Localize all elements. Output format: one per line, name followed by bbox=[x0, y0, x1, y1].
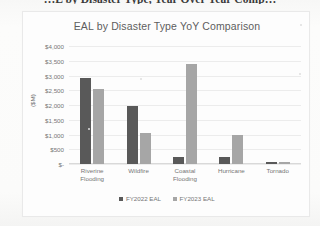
legend-label: FY2022 EAL bbox=[126, 195, 161, 202]
x-axis-tick-label: Hurricane bbox=[210, 167, 252, 182]
bar[interactable] bbox=[186, 64, 197, 164]
bar-group bbox=[71, 46, 113, 164]
legend-label: FY2023 EAL bbox=[180, 195, 215, 202]
legend-item[interactable]: FY2022 EAL bbox=[119, 195, 161, 202]
y-axis-tick-label: $- bbox=[58, 161, 64, 168]
bar[interactable] bbox=[140, 133, 151, 164]
scan-speck bbox=[299, 73, 301, 75]
bar[interactable] bbox=[173, 157, 184, 164]
bar[interactable] bbox=[266, 162, 277, 164]
y-axis-tick-label: $2,000 bbox=[45, 102, 64, 109]
y-axis-tick-label: $4,000 bbox=[45, 43, 64, 50]
chart-object[interactable]: EAL by Disaster Type YoY Comparison ($M)… bbox=[22, 11, 310, 217]
x-axis-labels: Riverine FloodingWildfireCoastal Floodin… bbox=[69, 167, 301, 182]
bar-group bbox=[164, 46, 206, 164]
chart-legend: FY2022 EALFY2023 EAL bbox=[23, 195, 311, 202]
x-axis-tick-label: Wildfire bbox=[118, 167, 160, 182]
y-axis-tick-label: $1,000 bbox=[45, 131, 64, 138]
y-axis-tick-label: $500 bbox=[50, 146, 64, 153]
bar-group bbox=[210, 46, 252, 164]
bar[interactable] bbox=[219, 157, 230, 164]
plot-area: $4,000$3,500$3,000$2,500$2,000$1,500$1,0… bbox=[69, 46, 301, 164]
legend-item[interactable]: FY2023 EAL bbox=[173, 195, 215, 202]
legend-swatch bbox=[119, 197, 123, 201]
chart-title: EAL by Disaster Type YoY Comparison bbox=[23, 20, 311, 32]
bar-groups bbox=[69, 46, 301, 164]
bar-group bbox=[118, 46, 160, 164]
scan-speck bbox=[88, 128, 90, 130]
bar[interactable] bbox=[80, 78, 91, 164]
document-heading: …L by Disaster Type, Year Over Year Comp… bbox=[0, 0, 320, 4]
x-axis-tick-label: Riverine Flooding bbox=[71, 167, 113, 182]
x-axis-tick-label: Coastal Flooding bbox=[164, 167, 206, 182]
bar[interactable] bbox=[279, 162, 290, 164]
gridline bbox=[69, 164, 301, 165]
scan-speck bbox=[300, 24, 302, 26]
bar[interactable] bbox=[232, 135, 243, 165]
y-axis-tick-label: $3,000 bbox=[45, 72, 64, 79]
y-axis-tick-label: $3,500 bbox=[45, 57, 64, 64]
bar[interactable] bbox=[93, 89, 104, 164]
bar-group bbox=[257, 46, 299, 164]
legend-swatch bbox=[173, 197, 177, 201]
bar[interactable] bbox=[127, 106, 138, 164]
y-axis-tick-label: $2,500 bbox=[45, 87, 64, 94]
x-axis-tick-label: Tornado bbox=[257, 167, 299, 182]
y-axis-tick-label: $1,500 bbox=[45, 116, 64, 123]
scan-speck bbox=[140, 78, 142, 80]
y-axis-title: ($M) bbox=[29, 94, 36, 107]
